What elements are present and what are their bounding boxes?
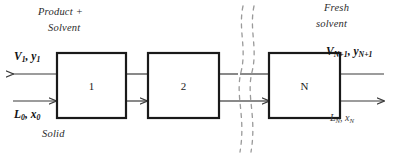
solid-caption: Solid bbox=[42, 128, 65, 139]
stage-1: 1 bbox=[57, 53, 126, 118]
break-line-right bbox=[250, 6, 254, 152]
y1-subscript: 1 bbox=[36, 55, 40, 64]
xn-subscript: N bbox=[350, 117, 355, 124]
v1-symbol: V bbox=[14, 50, 22, 62]
product-caption-line2: Solvent bbox=[48, 22, 80, 33]
yn1-subscript: N+1 bbox=[359, 50, 373, 59]
vn1-symbol: V bbox=[326, 45, 334, 57]
fresh-solvent-caption-line1: Fresh bbox=[324, 2, 349, 13]
stream-label-ln-xn: LN, xN bbox=[330, 112, 354, 124]
fresh-solvent-caption-line2: solvent bbox=[316, 18, 347, 29]
stream-label-l0-x0: L0, x0 bbox=[14, 108, 40, 122]
stage-2-label: 2 bbox=[181, 80, 187, 92]
leaching-cascade-diagram: 1 2 N Product + Solvent Solid Fresh solv… bbox=[0, 0, 396, 158]
v1-subscript: 1 bbox=[22, 55, 26, 64]
stage-2: 2 bbox=[148, 53, 219, 118]
stream-label-vn1-yn1: VN+1, yN+1 bbox=[326, 45, 373, 59]
stage-1-label: 1 bbox=[89, 80, 95, 92]
break-line-left bbox=[239, 6, 243, 152]
product-caption-line1: Product + bbox=[38, 6, 83, 17]
cascade-break-symbol bbox=[239, 6, 254, 152]
ln-subscript: N bbox=[336, 117, 341, 124]
l0-subscript: 0 bbox=[21, 113, 25, 122]
stage-n: N bbox=[269, 53, 340, 118]
l0-symbol: L bbox=[14, 108, 21, 120]
vn1-subscript: N+1 bbox=[334, 50, 348, 59]
stage-n-label: N bbox=[301, 80, 309, 92]
stream-label-v1-y1: V1, y1 bbox=[14, 50, 40, 64]
x0-subscript: 0 bbox=[36, 113, 40, 122]
